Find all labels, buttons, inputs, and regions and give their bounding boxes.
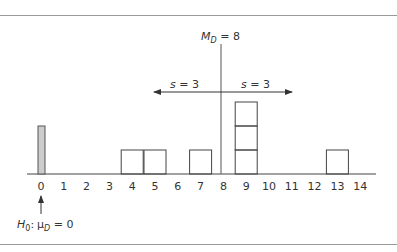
tick-label: 7 bbox=[197, 180, 204, 193]
tick-label: 13 bbox=[330, 180, 344, 193]
tick-label: 12 bbox=[308, 180, 322, 193]
score-box bbox=[235, 102, 257, 126]
score-box bbox=[190, 150, 212, 174]
tick-label: 0 bbox=[38, 180, 45, 193]
tick-label: 8 bbox=[220, 180, 227, 193]
h0-shaded-bar bbox=[38, 126, 45, 174]
tick-label: 2 bbox=[83, 180, 90, 193]
tick-label: 9 bbox=[243, 180, 250, 193]
x-axis-tick-labels: 01234567891011121314 bbox=[38, 180, 368, 193]
s-left-label: s = 3 bbox=[170, 78, 199, 91]
tick-label: 3 bbox=[106, 180, 113, 193]
tick-label: 11 bbox=[285, 180, 299, 193]
score-box bbox=[121, 150, 143, 174]
median-label: MD = 8 bbox=[201, 30, 240, 45]
score-boxes bbox=[121, 102, 348, 174]
distribution-diagram: MD = 8 s = 3 s = 3 01234567891011121314 … bbox=[0, 0, 397, 252]
score-box bbox=[235, 150, 257, 174]
tick-label: 4 bbox=[129, 180, 136, 193]
tick-label: 1 bbox=[60, 180, 67, 193]
h0-label: H0:μD = 0 bbox=[17, 218, 73, 233]
tick-label: 6 bbox=[174, 180, 181, 193]
tick-label: 5 bbox=[152, 180, 159, 193]
score-box bbox=[326, 150, 348, 174]
tick-label: 14 bbox=[353, 180, 367, 193]
score-box bbox=[235, 126, 257, 150]
s-right-label: s = 3 bbox=[241, 78, 270, 91]
score-box bbox=[144, 150, 166, 174]
tick-label: 10 bbox=[262, 180, 276, 193]
